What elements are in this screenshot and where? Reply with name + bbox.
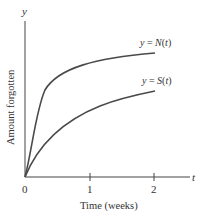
curve-n [25,53,155,177]
t-axis-symbol: t [192,171,196,183]
y-axis-symbol: y [21,5,27,17]
curve-n-label: y = N(t) [139,37,171,49]
curve-s-label-close: ) [168,75,171,87]
curve-n-label-eq: = [144,37,155,48]
curve-n-label-close: ) [168,37,171,49]
tick-label-2: 2 [151,183,157,195]
x-axis-label: Time (weeks) [80,200,138,212]
tick-label-1: 1 [87,183,93,195]
tick-label-0: 0 [22,183,28,195]
curve-s-label-eq: = [146,75,157,86]
forgetting-curves-chart: y t 0 1 2 Time (weeks) Amount forgotten … [0,0,201,219]
y-axis-label: Amount forgotten [5,69,16,145]
curve-s-label: y = S(t) [141,75,172,87]
curve-s [25,91,155,177]
